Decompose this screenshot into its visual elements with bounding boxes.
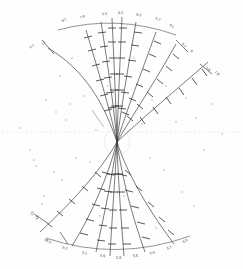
- track-down-6: [117, 142, 174, 244]
- track-up-6: [117, 32, 156, 142]
- track-up-5: [117, 22, 136, 142]
- label-bottom-5: 5.5: [133, 255, 138, 259]
- label-bottom-2: 0.1: [82, 252, 88, 257]
- end-ticks: [34, 40, 212, 244]
- track-down-1: [72, 142, 117, 246]
- track-down-5: [117, 142, 145, 252]
- detector-diagram: [0, 0, 243, 269]
- label-bottom-3: 5.6: [100, 255, 105, 259]
- track-fan-upper: [86, 17, 208, 142]
- track-down-4: [117, 142, 124, 256]
- curved-track-upper-left: [42, 40, 117, 142]
- label-top-3: 9.2: [118, 12, 123, 16]
- label-top-2: 9.3: [102, 13, 107, 17]
- track-fan-lower: [40, 142, 174, 256]
- event-display-canvas: 8.1 7.8 9.3 9.2 8.3 5.2 4.1 46.5 9.2 0.1…: [0, 0, 243, 269]
- track-down-7: [40, 142, 117, 232]
- top-boundary-arc: [58, 23, 176, 35]
- track-down-3: [110, 142, 117, 256]
- short-track-stub: [92, 110, 104, 127]
- background-noise-hits: [19, 57, 223, 229]
- hit-markers-upper: [84, 28, 207, 124]
- label-bottom-4: 5.3: [116, 257, 121, 261]
- label-top-4: 8.3: [136, 14, 142, 18]
